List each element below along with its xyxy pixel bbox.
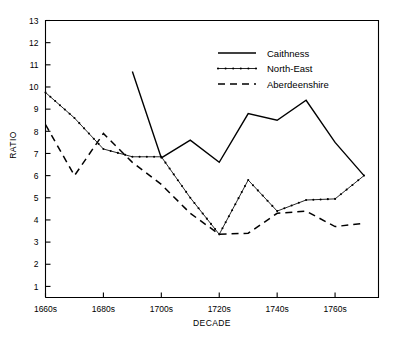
x-tick-label: 1680s — [92, 304, 115, 314]
series-marker — [247, 179, 249, 181]
x-tick-label: 1660s — [34, 304, 57, 314]
series-marker — [221, 227, 223, 229]
chart-series — [44, 71, 365, 235]
y-tick-label: 7 — [34, 149, 39, 159]
series-marker — [78, 122, 80, 124]
series-marker — [334, 198, 336, 200]
legend-label: Caithness — [267, 48, 309, 59]
series-marker — [88, 132, 90, 134]
y-tick-label: 8 — [34, 127, 39, 137]
series-marker — [59, 104, 61, 106]
series-marker — [234, 203, 236, 205]
series-marker — [198, 207, 200, 209]
series-marker — [346, 189, 348, 191]
series-marker — [93, 138, 95, 140]
series-marker — [189, 197, 191, 199]
series-marker — [276, 210, 278, 212]
series-marker — [64, 108, 66, 110]
series-marker — [181, 185, 183, 187]
y-tick-label: 2 — [34, 259, 39, 269]
series-marker — [241, 191, 243, 193]
series-marker — [214, 228, 216, 230]
series-marker — [298, 202, 300, 204]
x-tick-label: 1720s — [208, 304, 231, 314]
series-marker — [320, 198, 322, 200]
series-marker — [262, 195, 264, 197]
series-marker — [357, 179, 359, 181]
x-tick-label: 1700s — [150, 304, 173, 314]
series-marker — [244, 185, 246, 187]
series-marker — [131, 156, 133, 158]
series-marker — [283, 207, 285, 209]
series-marker — [271, 205, 273, 207]
series-marker — [169, 167, 171, 169]
series-marker — [98, 143, 100, 145]
series-marker — [83, 127, 85, 129]
y-tick-label: 12 — [29, 38, 39, 48]
legend-label: Aberdeenshire — [267, 79, 329, 90]
series-marker — [266, 200, 268, 202]
chart-axes — [46, 21, 379, 298]
series-marker — [231, 209, 233, 211]
series-marker — [164, 162, 166, 164]
series-marker — [327, 198, 329, 200]
series-marker — [257, 189, 259, 191]
x-tick-label: 1760s — [323, 304, 346, 314]
series-marker — [177, 179, 179, 181]
legend-label: North-East — [267, 63, 313, 74]
chart-legend: CaithnessNorth-EastAberdeenshire — [217, 48, 329, 90]
y-tick-label: 11 — [30, 60, 39, 70]
series-marker — [110, 150, 112, 152]
y-axis-title: RATIO — [8, 131, 18, 158]
axis-ticks — [46, 21, 336, 298]
series-marker — [210, 223, 212, 225]
series-marker — [117, 152, 119, 154]
y-tick-label: 10 — [29, 82, 39, 92]
series-marker — [124, 154, 126, 156]
series-marker — [139, 156, 141, 158]
series-marker — [49, 96, 51, 98]
x-axis-tick-labels: 1660s1680s1700s1720s1740s1760s — [34, 304, 347, 314]
series-marker — [146, 156, 148, 158]
series-marker — [173, 173, 175, 175]
series-marker — [54, 100, 56, 102]
series-marker — [225, 221, 227, 223]
series-marker — [252, 184, 254, 186]
chart-container: 12345678910111213 1660s1680s1700s1720s17… — [0, 0, 397, 350]
series-marker — [351, 184, 353, 186]
series-marker — [202, 212, 204, 214]
series-marker — [44, 91, 46, 93]
series-marker — [237, 197, 239, 199]
line-chart: 12345678910111213 1660s1680s1700s1720s17… — [0, 0, 397, 350]
series-marker — [185, 191, 187, 193]
y-tick-label: 13 — [29, 16, 39, 26]
series-marker — [153, 156, 155, 158]
y-tick-label: 3 — [34, 237, 39, 247]
series-path-caithness — [132, 71, 364, 175]
series-marker — [340, 193, 342, 195]
series-marker — [228, 215, 230, 217]
y-tick-label: 4 — [34, 215, 39, 225]
series-marker — [363, 175, 365, 177]
y-tick-label: 9 — [34, 104, 39, 114]
x-axis-title: DECADE — [193, 318, 231, 328]
series-marker — [193, 202, 195, 204]
series-marker — [73, 117, 75, 119]
x-tick-label: 1740s — [266, 304, 289, 314]
series-path-aberdeenshire — [46, 125, 365, 235]
series-marker — [69, 113, 71, 115]
plot-frame — [46, 21, 379, 298]
y-axis-tick-labels: 12345678910111213 — [29, 16, 39, 292]
series-marker — [291, 204, 293, 206]
y-tick-label: 5 — [34, 193, 39, 203]
series-marker — [305, 199, 307, 201]
y-tick-label: 1 — [34, 282, 39, 292]
y-tick-label: 6 — [34, 171, 39, 181]
series-marker — [206, 218, 208, 220]
series-marker — [102, 148, 104, 150]
series-marker — [312, 199, 314, 201]
series-marker — [160, 156, 162, 158]
